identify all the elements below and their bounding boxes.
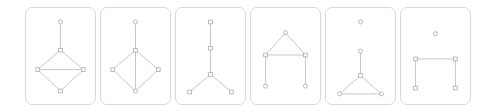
graph-edge bbox=[113, 70, 136, 91]
graph-node-square[interactable] bbox=[111, 68, 115, 72]
graph-drawing-2 bbox=[101, 8, 170, 104]
graph-panel-3[interactable] bbox=[175, 7, 246, 105]
graph-panel-4[interactable] bbox=[250, 7, 321, 105]
graph-panel-board bbox=[0, 0, 502, 112]
graph-node-square[interactable] bbox=[454, 86, 458, 90]
node-group bbox=[264, 31, 308, 89]
graph-drawing-3 bbox=[176, 8, 245, 104]
graph-node-circle[interactable] bbox=[358, 20, 362, 24]
graph-node-square[interactable] bbox=[209, 20, 213, 24]
graph-node-circle[interactable] bbox=[379, 92, 383, 96]
graph-edge bbox=[361, 75, 382, 93]
edge-group bbox=[190, 22, 232, 92]
graph-edge bbox=[286, 33, 306, 55]
graph-edge bbox=[211, 74, 232, 91]
graph-node-circle[interactable] bbox=[338, 92, 342, 96]
graph-edge bbox=[61, 70, 84, 91]
graph-edge bbox=[38, 70, 61, 91]
graph-node-square[interactable] bbox=[414, 86, 418, 90]
edge-group bbox=[416, 59, 456, 88]
graph-node-circle[interactable] bbox=[358, 49, 362, 53]
graph-node-circle[interactable] bbox=[283, 31, 287, 35]
graph-edge bbox=[113, 50, 136, 69]
graph-node-circle[interactable] bbox=[133, 20, 137, 24]
graph-edge bbox=[136, 50, 159, 69]
graph-panel-1[interactable] bbox=[25, 7, 96, 105]
edge-group bbox=[113, 22, 159, 91]
graph-node-square[interactable] bbox=[188, 90, 192, 94]
graph-node-square[interactable] bbox=[134, 48, 138, 52]
graph-node-circle[interactable] bbox=[303, 84, 307, 88]
graph-node-square[interactable] bbox=[414, 57, 418, 61]
graph-edge bbox=[61, 50, 84, 69]
graph-drawing-1 bbox=[26, 8, 95, 104]
graph-node-square[interactable] bbox=[264, 53, 268, 57]
graph-node-square[interactable] bbox=[454, 57, 458, 61]
graph-node-square[interactable] bbox=[359, 74, 363, 78]
graph-node-square[interactable] bbox=[209, 73, 213, 77]
graph-panel-2[interactable] bbox=[100, 7, 171, 105]
graph-node-square[interactable] bbox=[304, 53, 308, 57]
graph-node-circle[interactable] bbox=[433, 32, 437, 36]
graph-node-square[interactable] bbox=[156, 68, 160, 72]
graph-edge bbox=[340, 75, 361, 93]
graph-node-square[interactable] bbox=[230, 90, 234, 94]
graph-node-circle[interactable] bbox=[133, 89, 137, 93]
edge-group bbox=[38, 22, 84, 91]
graph-edge bbox=[266, 33, 286, 55]
graph-node-square[interactable] bbox=[59, 89, 63, 93]
graph-node-circle[interactable] bbox=[58, 20, 62, 24]
graph-edge bbox=[190, 74, 211, 91]
graph-drawing-5 bbox=[326, 8, 395, 104]
graph-drawing-6 bbox=[401, 8, 470, 104]
graph-panel-5[interactable] bbox=[325, 7, 396, 105]
graph-node-square[interactable] bbox=[36, 68, 40, 72]
graph-node-circle[interactable] bbox=[264, 84, 268, 88]
graph-drawing-4 bbox=[251, 8, 320, 104]
graph-node-square[interactable] bbox=[209, 46, 213, 50]
graph-panel-6[interactable] bbox=[400, 7, 471, 105]
graph-edge bbox=[136, 70, 159, 91]
node-group bbox=[414, 32, 458, 90]
edge-group bbox=[340, 51, 382, 94]
graph-node-square[interactable] bbox=[81, 68, 85, 72]
edge-group bbox=[266, 33, 306, 86]
graph-node-square[interactable] bbox=[59, 48, 63, 52]
graph-edge bbox=[38, 50, 61, 69]
